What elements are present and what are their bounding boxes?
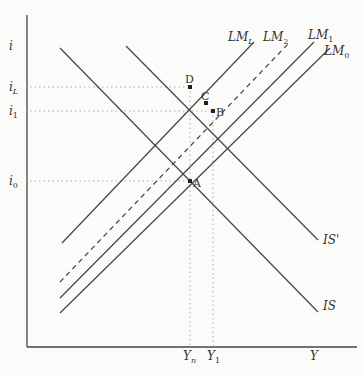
lm-l-curve [62,42,254,243]
lm-2-label: LM2 [262,30,288,46]
point-c-label: C [201,90,209,103]
y-axis-label: i [9,39,13,53]
point-a-marker [188,179,192,183]
point-b-label: B [216,106,224,119]
lm-1-label: LM1 [307,28,333,44]
point-d-label: D [185,73,194,86]
point-a-label: A [192,177,202,190]
y-tick-i1: i1 [9,104,18,120]
x-tick-yn: Yn [183,349,196,365]
point-b-marker [211,109,215,113]
is-lm-diagram: D C B A i Y iL i1 i0 Yn Y1 LML LM2 LM1 L… [0,0,363,375]
x-axis-label: Y [310,349,319,363]
lm-0-label: LM0 [323,44,349,60]
x-tick-y1: Y1 [207,349,220,365]
y-tick-il: iL [9,80,18,96]
is-label: IS [322,299,336,313]
y-tick-i0: i0 [9,174,18,190]
lm-l-label: LML [227,30,254,46]
guide-lines [30,87,213,347]
is-prime-label: IS' [322,233,339,247]
